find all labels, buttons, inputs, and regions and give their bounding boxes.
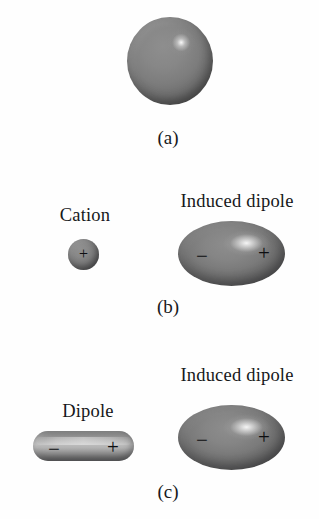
induced-dipole-ellipse-c: − + [178,405,285,470]
induced-dipole-plus-sign-c: + [257,427,271,448]
dipole-rod: − + [33,431,134,461]
dipole-label: Dipole [48,401,128,422]
neutral-atom-sphere [127,17,213,105]
induced-dipole-minus-sign-b: − [195,246,209,267]
induced-dipole-plus-sign-b: + [257,243,271,264]
induced-dipole-label-b: Induced dipole [167,191,307,212]
dipole-plus-sign: + [106,437,120,458]
cation-label: Cation [45,205,125,226]
caption-b: (b) [138,296,198,318]
cation-plus-sign: + [68,246,99,262]
caption-a: (a) [138,127,198,149]
induced-dipole-figure: (a) Cation + Induced dipole − + (b) Dipo… [0,0,319,519]
caption-c: (c) [138,481,198,503]
induced-dipole-minus-sign-c: − [195,430,209,451]
cation-sphere: + [68,239,99,270]
induced-dipole-ellipse-b: − + [178,221,285,286]
induced-dipole-label-c: Induced dipole [167,365,307,386]
dipole-minus-sign: − [47,439,61,460]
